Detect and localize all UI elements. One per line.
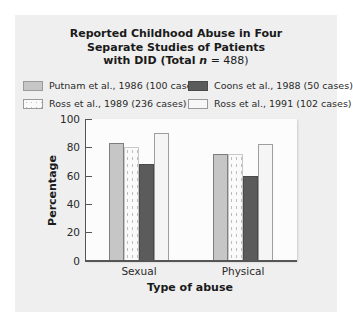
bar-ross89-physical: [228, 154, 243, 260]
y-tick-mark: [86, 204, 92, 205]
legend-label-coons: Coons et al., 1988 (50 cases): [214, 80, 353, 91]
y-tick-label: 40: [56, 198, 80, 210]
y-axis: [85, 119, 86, 261]
legend-swatch-coons: [188, 81, 208, 91]
bar-coons-physical: [243, 176, 258, 261]
y-tick-label: 80: [56, 141, 80, 153]
legend-swatch-putnam: [23, 81, 43, 91]
legend-item-ross91: Ross et al., 1991 (102 cases): [188, 98, 352, 109]
bar-ross91-physical: [258, 144, 273, 260]
title-line-2: Separate Studies of Patients: [15, 41, 337, 55]
y-tick-mark: [86, 119, 92, 120]
chart-title: Reported Childhood Abuse in Four Separat…: [15, 27, 337, 68]
y-tick-mark: [86, 232, 92, 233]
italic-n: n: [199, 54, 207, 67]
bar-putnam-sexual: [109, 143, 124, 260]
x-axis-label: Type of abuse: [140, 281, 240, 294]
y-axis-label: Percentage: [46, 141, 59, 241]
x-category-physical: Physical: [208, 265, 278, 277]
x-category-sexual: Sexual: [104, 265, 174, 277]
bar-coons-sexual: [139, 164, 154, 260]
legend-item-coons: Coons et al., 1988 (50 cases): [188, 80, 353, 91]
title-line-3: with DID (Total n = 488): [15, 54, 337, 68]
y-tick-mark: [86, 176, 92, 177]
bar-putnam-physical: [213, 154, 228, 260]
legend-item-ross89: Ross et al., 1989 (236 cases): [23, 98, 187, 109]
legend-label-ross91: Ross et al., 1991 (102 cases): [214, 98, 352, 109]
y-tick-label: 20: [56, 226, 80, 238]
legend-item-putnam: Putnam et al., 1986 (100 cases): [23, 80, 201, 91]
y-tick-label: 60: [56, 170, 80, 182]
total-n-value: = 488): [207, 54, 249, 67]
y-tick-label: 0: [56, 255, 80, 267]
legend-swatch-ross91: [188, 99, 208, 109]
bar-ross91-sexual: [154, 133, 169, 260]
title-line-1: Reported Childhood Abuse in Four: [15, 27, 337, 41]
y-tick-mark: [86, 147, 92, 148]
x-axis: [85, 260, 297, 262]
legend-label-putnam: Putnam et al., 1986 (100 cases): [49, 80, 201, 91]
legend-swatch-ross89: [23, 99, 43, 109]
legend-label-ross89: Ross et al., 1989 (236 cases): [49, 98, 187, 109]
y-tick-mark: [86, 261, 92, 262]
bar-ross89-sexual: [124, 147, 139, 260]
y-tick-label: 100: [56, 113, 80, 125]
